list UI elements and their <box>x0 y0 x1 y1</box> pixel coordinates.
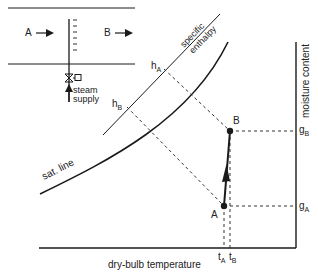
temperature-b-label: tB <box>229 251 237 264</box>
state-point-b-label: B <box>233 115 240 126</box>
temperature-a-label: tA <box>218 251 226 264</box>
duct-schematic: A B steam supply <box>8 8 135 104</box>
saturation-line-label: sat. line <box>40 156 76 182</box>
saturation-line <box>40 42 228 194</box>
enthalpy-line-a <box>164 69 230 131</box>
process-direction-arrow-icon <box>222 164 230 182</box>
y-axis-label: moisture content <box>300 44 311 118</box>
moisture-b-label: gB <box>299 124 310 137</box>
state-point-a-label: A <box>211 209 218 220</box>
enthalpy-line-b <box>127 107 224 206</box>
enthalpy-b-label: hB <box>112 98 123 111</box>
steam-nozzles <box>73 20 77 50</box>
x-axis-label: dry-bulb temperature <box>108 259 201 270</box>
psychrometric-steam-humidification-diagram: A B steam supply dry-bulb <box>0 0 318 276</box>
enthalpy-a-label: hA <box>151 60 162 73</box>
duct-outlet-label: B <box>104 27 111 38</box>
steam-supply-label-line2: supply <box>73 94 100 104</box>
state-point-b <box>227 128 233 134</box>
moisture-a-label: gA <box>299 200 310 213</box>
state-point-a <box>221 203 227 209</box>
control-valve-icon <box>65 74 81 82</box>
psychrometric-chart: dry-bulb temperature moisture content sa… <box>39 14 311 270</box>
duct-inlet-label: A <box>25 27 32 38</box>
